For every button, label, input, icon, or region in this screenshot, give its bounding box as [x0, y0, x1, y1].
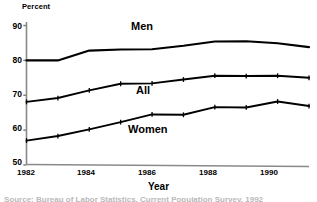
chart-figure: Percent 90 80 70 60 50 1982 1984 1986 19…: [0, 0, 317, 202]
caption-text: Source: Bureau of Labor Statistics, Curr…: [0, 196, 317, 202]
series-label-women: Women: [128, 124, 168, 135]
series-label-all: All: [136, 85, 150, 96]
axis-lines: [27, 22, 310, 167]
plot-area: [0, 0, 317, 202]
x-axis-title: Year: [0, 181, 317, 192]
series-label-men: Men: [131, 21, 153, 32]
figure-caption: Source: Bureau of Labor Statistics, Curr…: [0, 196, 317, 202]
